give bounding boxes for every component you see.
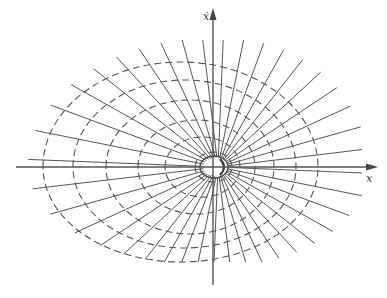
y-axis-arrow-icon [210,8,217,20]
radial-line [214,177,218,262]
horizontal-axis-label: x [366,172,372,185]
radial-line [117,57,212,160]
radial-line [228,167,362,173]
radial-line [33,168,208,189]
radial-line [228,150,362,166]
radial-line [224,60,303,159]
radial-line [36,131,209,165]
x-axis-arrow-icon [366,164,378,171]
radial-line [182,176,215,262]
radial-line [225,174,297,252]
radial-line [228,169,362,196]
radial-line [94,69,211,161]
radial-line [224,175,279,258]
radial-line [28,159,208,166]
vertical-axis-label: ẋ [203,10,209,23]
radial-line [225,72,320,160]
phase-portrait-figure [0,0,387,298]
radial-line [100,173,209,246]
radial-trajectory-lines [28,40,362,262]
radial-line [218,40,223,157]
radial-line [223,50,284,158]
axes [16,8,378,285]
